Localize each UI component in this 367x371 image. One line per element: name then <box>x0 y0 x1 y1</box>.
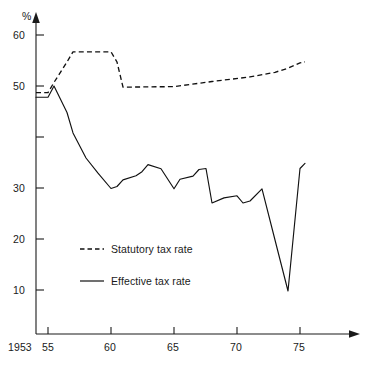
x-tick-label-1953: 1953 <box>8 341 32 353</box>
series-statutory-tax-rate <box>36 52 305 93</box>
y-axis <box>32 12 40 334</box>
tax-rate-line-chart: % 60 50 30 20 10 1953 55 60 65 70 75 Sta… <box>0 0 367 371</box>
y-axis-unit-label: % <box>22 10 31 22</box>
legend-label-statutory-tax-rate: Statutory tax rate <box>111 243 193 255</box>
x-axis <box>36 330 360 338</box>
y-axis-arrowhead <box>32 12 40 23</box>
x-tick-label-60: 60 <box>104 341 116 353</box>
x-tick-label-70: 70 <box>230 341 242 353</box>
y-tick-marks <box>36 35 44 290</box>
legend-swatches <box>80 249 104 281</box>
x-axis-arrowhead <box>349 330 360 338</box>
y-tick-label-50: 50 <box>13 80 25 92</box>
chart-plot-area <box>0 0 367 371</box>
y-tick-label-30: 30 <box>13 182 25 194</box>
y-tick-label-10: 10 <box>13 284 25 296</box>
x-tick-marks <box>48 327 300 334</box>
x-tick-label-55: 55 <box>42 341 54 353</box>
x-tick-label-65: 65 <box>167 341 179 353</box>
x-tick-label-75: 75 <box>293 341 305 353</box>
y-tick-label-60: 60 <box>13 29 25 41</box>
series-effective-tax-rate <box>36 86 305 291</box>
legend-label-effective-tax-rate: Effective tax rate <box>111 275 191 287</box>
y-tick-label-20: 20 <box>13 233 25 245</box>
